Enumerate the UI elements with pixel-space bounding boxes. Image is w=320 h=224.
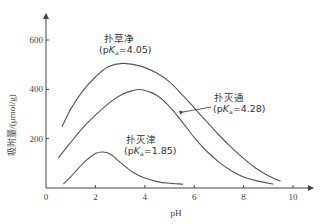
x-tick-label: 8	[241, 192, 246, 202]
y-tick-label: 400	[30, 84, 44, 94]
annotation-2-pka: (pKa=4.28)	[213, 103, 266, 115]
annotation-1-name: 扑草净	[104, 33, 134, 44]
y-tick-label: 600	[30, 35, 44, 45]
annotation-series-3: 扑灭津 (pKa=1.85)	[124, 134, 177, 157]
annotation-series-2: 扑灭通 (pKa=4.28)	[183, 92, 266, 115]
axes	[46, 14, 313, 188]
y-tick-label: 200	[30, 134, 44, 144]
x-tick-label: 2	[93, 192, 98, 202]
y-axis-title: 吸附量/(μmol/g)	[6, 94, 17, 155]
x-tick-label: 0	[44, 192, 49, 202]
x-tick-label: 6	[192, 192, 197, 202]
annotation-2-name: 扑灭通	[214, 92, 244, 103]
annotation-3-pka: (pKa=1.85)	[124, 145, 177, 157]
series-lines	[58, 63, 280, 184]
annotation-1-pka: (pKa=4.05)	[99, 44, 152, 56]
series-line-1	[62, 63, 281, 181]
adsorption-ph-chart: 200400600 0246810 pH 吸附量/(μmol/g) 扑草净 (p…	[0, 0, 320, 224]
x-tick-label: 10	[289, 192, 299, 202]
annotation-series-1: 扑草净 (pKa=4.05)	[99, 33, 152, 56]
series-line-3	[63, 152, 183, 184]
annotation-3-name: 扑灭津	[126, 134, 156, 145]
x-tick-label: 4	[143, 192, 148, 202]
x-axis-title: pH	[171, 208, 183, 218]
